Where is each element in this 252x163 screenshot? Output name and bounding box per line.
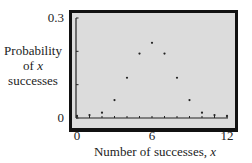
x-tick-12: 12: [217, 128, 237, 144]
y-label-line3: successes: [0, 73, 66, 88]
data-points: [76, 42, 228, 117]
data-point: [163, 52, 165, 54]
x-label-var: x: [210, 144, 216, 159]
data-point: [101, 112, 103, 114]
y-axis-label: Probability of x successes: [0, 43, 66, 88]
y-tick-0: 0: [44, 110, 64, 126]
data-point: [213, 114, 215, 116]
y-label-var: x: [37, 58, 43, 73]
x-axis-label: Number of successes, x: [80, 144, 230, 160]
y-label-line1: Probability: [0, 43, 66, 58]
data-point: [138, 52, 140, 54]
data-point: [226, 115, 228, 117]
data-point: [176, 77, 178, 79]
y-tick-0.3: 0.3: [44, 10, 64, 26]
data-point: [126, 77, 128, 79]
data-point: [151, 42, 153, 44]
data-point: [76, 115, 78, 117]
x-tick-0: 0: [67, 128, 87, 144]
data-point: [188, 99, 190, 101]
data-point: [201, 112, 203, 114]
data-point: [88, 114, 90, 116]
x-label-text: Number of successes,: [94, 144, 210, 159]
x-tick-6: 6: [142, 128, 162, 144]
y-label-of: of: [23, 58, 37, 73]
y-label-line2: of x: [0, 58, 66, 73]
axes: [76, 18, 228, 118]
data-point: [113, 99, 115, 101]
